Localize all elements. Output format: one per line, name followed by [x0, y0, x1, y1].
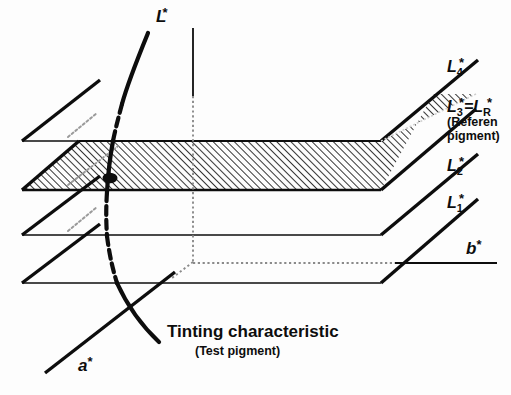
plane-L1-left-edge [22, 224, 100, 283]
b-axis-star: * [476, 237, 481, 252]
plane-L4-left-edge [22, 80, 100, 141]
L-axis-star: * [162, 5, 167, 20]
plane-L3-equals: = [464, 98, 473, 115]
plane-L4-letter: L [447, 58, 457, 75]
a-axis-line [45, 272, 175, 373]
a-axis-star: * [87, 354, 92, 369]
plane-L2-letter: L [447, 157, 457, 174]
curve-caption-sub: (Test pigment) [195, 345, 280, 358]
plane-L3-star2: * [487, 95, 492, 110]
L-axis-label: L* [156, 6, 167, 26]
L-axis-dotted-foot [172, 262, 193, 278]
plane-L3-letter: L [447, 98, 457, 115]
plane-L4-interior-guide [68, 113, 97, 137]
plane-L3-note-line1: (Referen [447, 116, 498, 129]
curve-segment-dashed-mid [106, 192, 107, 236]
b-axis-label: b* [466, 238, 481, 258]
curve-segment-dashed-lower [107, 236, 117, 283]
curve-caption-main: Tinting characteristic [167, 323, 339, 340]
tinting-characteristic-diagram: L* a* b* L4* L3*=LR* (Referen pigment) L… [0, 0, 511, 395]
plane-label-L2: L2* [447, 155, 464, 177]
plane-L3-reference [22, 94, 476, 190]
plane-L1-star: * [459, 191, 464, 206]
plane-L2-star: * [459, 154, 464, 169]
plane-L2-interior-guide [68, 207, 97, 231]
curve-segment-top-solid [122, 33, 148, 104]
intersection-point [103, 173, 118, 183]
plane-L3-note-line2: pigment) [447, 130, 500, 143]
plane-label-L4: L4* [447, 56, 464, 78]
plane-L3-letter2: L [473, 98, 483, 115]
b-axis-label-text: b [466, 239, 476, 258]
plane-L4-star: * [459, 55, 464, 70]
plane-label-L1: L1* [447, 192, 464, 214]
a-axis [45, 272, 175, 373]
a-axis-label: a* [78, 355, 93, 375]
plane-L1-letter: L [447, 194, 457, 211]
curve-segment-dashed-upper [113, 104, 122, 141]
